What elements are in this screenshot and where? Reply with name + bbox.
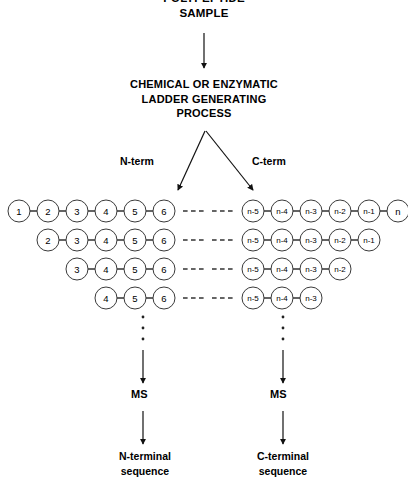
residue-label: n-5 xyxy=(247,265,259,274)
diagram-vector-layer: 123456234563456456 n-5n-4n-3n-2n-1nn-5n-… xyxy=(0,0,408,489)
residue-label: 3 xyxy=(74,264,79,275)
arrow-branch-to-c-term xyxy=(206,131,253,190)
residue-label: n-2 xyxy=(334,207,346,216)
arrow-branch-to-n-term xyxy=(178,131,205,190)
ladder-row: 456 xyxy=(95,287,204,309)
residue-label: 6 xyxy=(161,235,166,246)
ladder-row: 3456 xyxy=(66,258,204,280)
residue-label: 4 xyxy=(103,235,108,246)
residue-label: 4 xyxy=(103,293,108,304)
vertical-ellipsis-dot xyxy=(282,327,285,330)
residue-label: n-4 xyxy=(276,265,288,274)
residue-label: n-4 xyxy=(276,294,288,303)
residue-label: n-4 xyxy=(276,207,288,216)
vertical-ellipsis-dot xyxy=(142,338,145,341)
residue-label: n-3 xyxy=(305,294,317,303)
residue-label: n-2 xyxy=(334,236,346,245)
vertical-ellipsis-dot xyxy=(142,316,145,319)
residue-label: 3 xyxy=(74,235,79,246)
residue-label: n-2 xyxy=(334,265,346,274)
polypeptide-ladder-sequencing-diagram: POLYPEPTIDE SAMPLE CHEMICAL OR ENZYMATIC… xyxy=(0,0,408,489)
vertical-ellipsis-dot xyxy=(282,316,285,319)
c-terminal-ladder: n-5n-4n-3n-2n-1nn-5n-4n-3n-2n-1n-5n-4n-3… xyxy=(212,200,408,309)
residue-label: 5 xyxy=(132,264,137,275)
residue-label: n-1 xyxy=(363,207,375,216)
residue-label: 2 xyxy=(45,206,50,217)
ladder-row: 23456 xyxy=(37,229,204,251)
residue-label: n-3 xyxy=(305,236,317,245)
ladder-row: n-5n-4n-3n-2 xyxy=(212,258,351,280)
residue-label: 6 xyxy=(161,293,166,304)
ladder-row: n-5n-4n-3n-2n-1 xyxy=(212,229,380,251)
ladder-row: 123456 xyxy=(8,200,204,222)
n-terminal-ladder: 123456234563456456 xyxy=(8,200,204,309)
residue-label: n-4 xyxy=(276,236,288,245)
residue-label: 5 xyxy=(132,206,137,217)
residue-label: 4 xyxy=(103,264,108,275)
residue-label: n-1 xyxy=(363,236,375,245)
residue-label: n-5 xyxy=(247,294,259,303)
residue-label: 6 xyxy=(161,206,166,217)
residue-label: n-5 xyxy=(247,207,259,216)
residue-label: 3 xyxy=(74,206,79,217)
residue-label: 6 xyxy=(161,264,166,275)
residue-label: 4 xyxy=(103,206,108,217)
residue-label: 5 xyxy=(132,235,137,246)
vertical-ellipsis-dot xyxy=(142,327,145,330)
ladder-row: n-5n-4n-3 xyxy=(212,287,322,309)
residue-label: 2 xyxy=(45,235,50,246)
vertical-ellipsis-dot xyxy=(282,338,285,341)
residue-label: 5 xyxy=(132,293,137,304)
residue-label: n-3 xyxy=(305,265,317,274)
residue-label: n-3 xyxy=(305,207,317,216)
residue-label: n-5 xyxy=(247,236,259,245)
residue-label: n xyxy=(395,206,400,217)
residue-label: 1 xyxy=(16,206,21,217)
vertical-ellipsis-group xyxy=(142,316,285,341)
ladder-row: n-5n-4n-3n-2n-1n xyxy=(212,200,408,222)
